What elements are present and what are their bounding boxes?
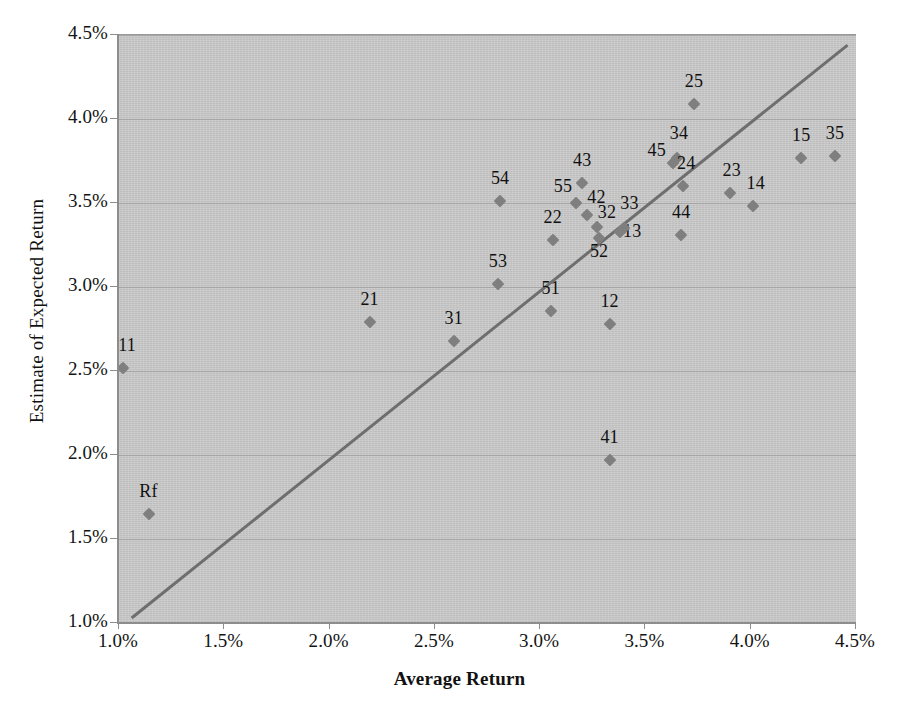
- x-tick-label: 2.5%: [394, 630, 474, 652]
- data-point-label: 41: [600, 427, 618, 448]
- data-point-label: 15: [792, 125, 810, 146]
- y-tick-label: 4.5%: [0, 22, 108, 44]
- data-point-label: 45: [648, 140, 666, 161]
- data-point-label: 12: [600, 291, 618, 312]
- x-tick-label: 1.0%: [78, 630, 158, 652]
- x-tick-label: 4.0%: [710, 630, 790, 652]
- reference-line: [119, 35, 856, 623]
- x-tick-label: 2.0%: [289, 630, 369, 652]
- data-point-label: 43: [573, 150, 591, 171]
- y-axis-line: [117, 34, 119, 623]
- data-point-label: 34: [670, 123, 688, 144]
- x-tick-label: 3.5%: [604, 630, 684, 652]
- y-tick-mark: [110, 202, 118, 203]
- data-point-label: 53: [489, 251, 507, 272]
- y-tick-mark: [110, 454, 118, 455]
- x-axis-title: Average Return: [0, 668, 919, 690]
- y-tick-mark: [110, 370, 118, 371]
- x-tick-mark: [118, 622, 119, 629]
- x-tick-mark: [539, 622, 540, 629]
- data-point-label: 54: [491, 168, 509, 189]
- y-tick-label: 1.0%: [0, 610, 108, 632]
- y-tick-label: 3.0%: [0, 274, 108, 296]
- y-tick-label: 3.5%: [0, 190, 108, 212]
- x-tick-mark: [855, 622, 856, 629]
- x-tick-mark: [434, 622, 435, 629]
- x-tick-label: 3.0%: [499, 630, 579, 652]
- scatter-chart: Rf11213153545122554342325212133341453444…: [0, 0, 919, 721]
- data-point-label: 55: [554, 176, 572, 197]
- y-axis-title: Estimate of Expected Return: [26, 31, 48, 591]
- y-tick-mark: [110, 622, 118, 623]
- y-tick-mark: [110, 118, 118, 119]
- x-tick-mark: [750, 622, 751, 629]
- data-point-label: 44: [672, 202, 690, 223]
- data-point-label: 21: [360, 289, 378, 310]
- data-point-label: Rf: [139, 481, 157, 502]
- data-point-label: 35: [826, 123, 844, 144]
- x-tick-label: 1.5%: [183, 630, 263, 652]
- y-tick-label: 2.0%: [0, 442, 108, 464]
- x-tick-mark: [223, 622, 224, 629]
- data-point-label: 51: [541, 278, 559, 299]
- x-axis-line: [117, 622, 856, 624]
- data-point-label: 23: [722, 160, 740, 181]
- y-tick-label: 4.0%: [0, 106, 108, 128]
- data-point-label: 22: [544, 207, 562, 228]
- plot-area: Rf11213153545122554342325212133341453444…: [118, 34, 856, 623]
- x-tick-mark: [644, 622, 645, 629]
- data-point-label: 14: [747, 173, 765, 194]
- y-tick-mark: [110, 538, 118, 539]
- y-tick-mark: [110, 286, 118, 287]
- y-tick-label: 2.5%: [0, 358, 108, 380]
- data-point-label: 11: [118, 335, 136, 356]
- data-point-label: 33: [620, 193, 638, 214]
- data-point-label: 24: [677, 153, 695, 174]
- data-point-label: 32: [598, 202, 616, 223]
- x-tick-mark: [329, 622, 330, 629]
- x-tick-label: 4.5%: [815, 630, 895, 652]
- data-point-label: 31: [445, 308, 463, 329]
- y-tick-mark: [110, 34, 118, 35]
- data-point-label: 25: [685, 71, 703, 92]
- y-tick-label: 1.5%: [0, 526, 108, 548]
- data-point-label: 52: [590, 241, 608, 262]
